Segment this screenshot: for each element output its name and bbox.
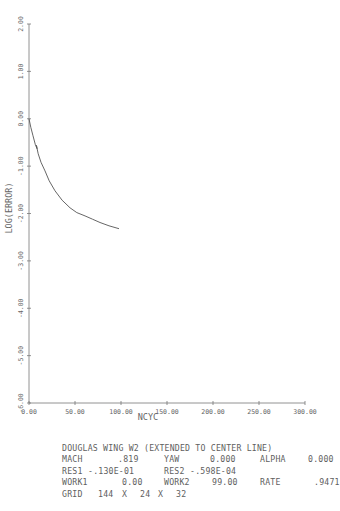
work2-label: WORK2 [164,477,190,488]
grid-i: 144 [98,489,113,500]
y-tick-label: 1.00 [17,63,25,79]
info-title-row: DOUGLAS WING W2 (EXTENDED TO CENTER LINE… [62,443,332,454]
work1-value: 0.00 [122,477,143,488]
info-row-work: WORK1 0.00 WORK2 99.00 RATE .9471 [62,477,332,488]
axes [29,24,305,403]
run-info-block: DOUGLAS WING W2 (EXTENDED TO CENTER LINE… [62,443,332,500]
grid-j: 24 [140,489,150,500]
work1-label: WORK1 [62,477,88,488]
rate-label: RATE [260,477,281,488]
y-axis-label: LOG(ERROR) [4,182,14,233]
grid-k: 32 [176,489,186,500]
info-row-residuals: RES1 -.130E-01 RES2 -.598E-04 [62,466,332,477]
x-tick-label: 50.00 [65,408,85,416]
res1-label: RES1 [62,466,83,477]
y-tick-label: -1.00 [17,156,25,176]
x-tick-label: 300.00 [293,408,317,416]
res2-label: RES2 [164,466,185,477]
yaw-value: 0.000 [210,454,236,465]
grid-label: GRID [62,489,83,500]
x-tick-label: 0.00 [21,408,37,416]
alpha-label: ALPHA [260,454,286,465]
x-axis-label: NCYC [138,412,158,422]
y-tick-label: -4.00 [17,298,25,318]
mach-value: .819 [118,454,139,465]
work2-value: 99.00 [212,477,238,488]
y-tick-label: -3.00 [17,251,25,271]
y-tick-label: 2.00 [17,16,25,32]
res1-value: -.130E-01 [88,466,134,477]
mach-label: MACH [62,454,83,465]
rate-value: .9471 [314,477,340,488]
yaw-label: YAW [164,454,179,465]
x-tick-label: 100.00 [109,408,133,416]
y-tick-label: -5.00 [17,346,25,366]
x-tick-label: 150.00 [155,408,179,416]
alpha-value: 0.000 [308,454,334,465]
info-row-mach: MACH .819 YAW 0.000 ALPHA 0.000 [62,454,332,465]
res2-value: -.598E-04 [190,466,236,477]
x-tick-label: 200.00 [201,408,225,416]
convergence-plot: 2.001.000.00-1.00-2.00-3.00-4.00-5.00-6.… [0,0,336,430]
y-tick-label: -2.00 [17,204,25,224]
y-tick-label: 0.00 [17,111,25,127]
case-title: DOUGLAS WING W2 (EXTENDED TO CENTER LINE… [62,443,272,454]
x-tick-label: 250.00 [247,408,271,416]
convergence-curve [29,119,119,229]
grid-x1: X [122,489,127,500]
info-row-grid: GRID 144 X 24 X 32 [62,489,332,500]
grid-x2: X [158,489,163,500]
